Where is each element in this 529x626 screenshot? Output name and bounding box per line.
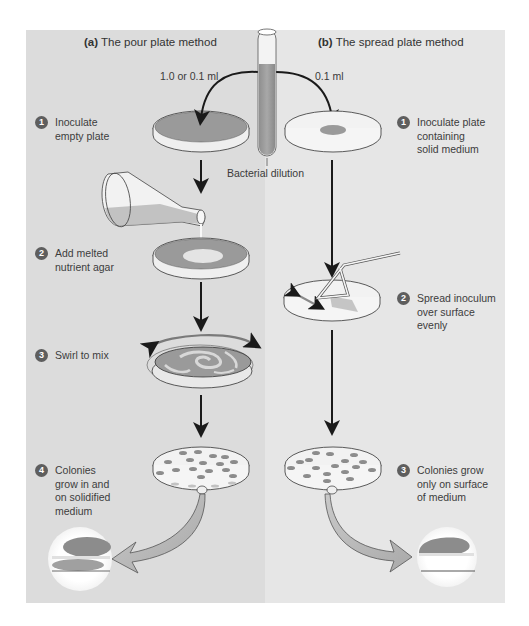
- volume-label-b: 0.1 ml: [315, 70, 344, 83]
- step-text: Colonies grow only on surface of medium: [417, 464, 488, 505]
- test-tube-icon: [258, 29, 276, 166]
- panel-a-title: (a) The pour plate method: [84, 36, 217, 48]
- step-a-3: 3 Swirl to mix: [35, 349, 109, 363]
- step-number-badge: 3: [35, 349, 48, 362]
- petri-dish-icon: [285, 111, 381, 152]
- panel-a-title-text: The pour plate method: [101, 36, 217, 48]
- step-a-4: 4 Colonies grow in and on solidified med…: [35, 464, 110, 518]
- step-number-badge: 1: [35, 116, 48, 129]
- step-b-1: 1 Inoculate plate containing solid mediu…: [397, 116, 485, 157]
- petri-dish-icon: [153, 238, 249, 279]
- magnified-view-icon: [417, 527, 477, 587]
- petri-dish-spread-icon: [284, 280, 380, 321]
- panel-b-title: (b) The spread plate method: [318, 36, 464, 48]
- volume-label-a: 1.0 or 0.1 ml: [160, 70, 218, 83]
- diagram-canvas: (a) The pour plate method (b) The spread…: [0, 0, 529, 626]
- magnified-view-icon: [48, 527, 112, 591]
- step-b-2: 2 Spread inoculum over surface evenly: [397, 292, 496, 333]
- tube-label: Bacterial dilution: [227, 167, 304, 180]
- panel-b-title-text: The spread plate method: [336, 36, 464, 48]
- step-number-badge: 2: [397, 292, 410, 305]
- step-text: Spread inoculum over surface evenly: [417, 292, 496, 333]
- step-number-badge: 3: [397, 464, 410, 477]
- step-text: Colonies grow in and on solidified mediu…: [55, 464, 110, 518]
- step-text: Inoculate plate containing solid medium: [417, 116, 485, 157]
- panel-a-title-prefix: (a): [84, 36, 98, 48]
- step-number-badge: 1: [397, 116, 410, 129]
- step-a-1: 1 Inoculate empty plate: [35, 116, 109, 143]
- step-text: Swirl to mix: [55, 349, 109, 363]
- step-number-badge: 4: [35, 464, 48, 477]
- step-text: Add melted nutrient agar: [55, 247, 114, 274]
- step-a-2: 2 Add melted nutrient agar: [35, 247, 114, 274]
- panel-b-title-prefix: (b): [318, 36, 333, 48]
- step-b-3: 3 Colonies grow only on surface of mediu…: [397, 464, 488, 505]
- step-number-badge: 2: [35, 247, 48, 260]
- step-text: Inoculate empty plate: [55, 116, 109, 143]
